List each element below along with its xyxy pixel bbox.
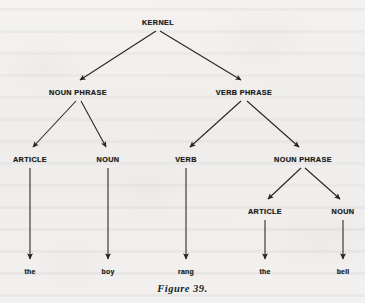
edge-noun-phrase-to-noun xyxy=(81,101,106,147)
tree-terminal-the-1: the xyxy=(25,268,36,275)
parse-tree-edges xyxy=(0,0,365,303)
tree-node-kernel: KERNEL xyxy=(142,18,174,27)
tree-node-noun-1: NOUN xyxy=(97,155,120,164)
tree-terminal-boy: boy xyxy=(102,268,115,275)
tree-terminal-rang: rang xyxy=(178,268,194,275)
tree-node-noun-phrase-inner: NOUN PHRASE xyxy=(274,155,332,164)
tree-node-verb: VERB xyxy=(175,155,197,164)
edge-verb-phrase-to-verb xyxy=(190,101,241,147)
edge-kernel-to-noun-phrase xyxy=(80,31,156,80)
edge-verb-phrase-to-noun-phrase xyxy=(247,101,299,147)
figure-caption: Figure 39. xyxy=(157,283,208,294)
edge-kernel-to-verb-phrase xyxy=(160,31,241,80)
tree-terminal-the-2: the xyxy=(260,268,271,275)
edge-noun-phrase-to-article xyxy=(33,101,76,147)
edge-inner-noun-phrase-to-noun xyxy=(305,168,340,199)
tree-terminal-bell: bell xyxy=(337,268,350,275)
edge-inner-noun-phrase-to-article xyxy=(268,168,301,199)
figure-page: KERNEL NOUN PHRASE VERB PHRASE ARTICLE N… xyxy=(0,0,365,303)
tree-node-article-1: ARTICLE xyxy=(13,155,47,164)
tree-node-article-2: ARTICLE xyxy=(248,207,282,216)
tree-node-noun-2: NOUN xyxy=(332,207,355,216)
tree-node-noun-phrase: NOUN PHRASE xyxy=(49,88,107,97)
tree-node-verb-phrase: VERB PHRASE xyxy=(216,88,273,97)
